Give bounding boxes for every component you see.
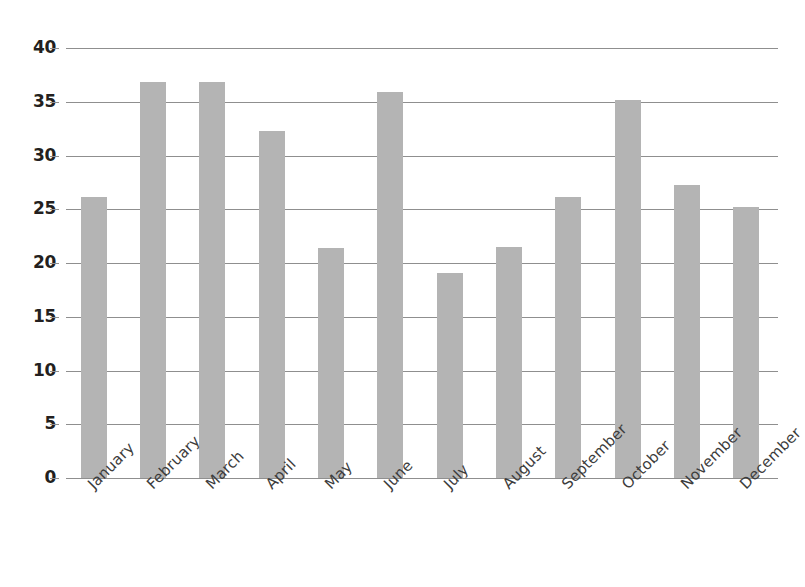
y-tick-label: 35 [10,91,56,111]
gridline [66,317,778,318]
y-tick-label: 40 [10,37,56,57]
y-tick-mark [50,102,59,103]
y-tick-mark [50,424,59,425]
plot-area [66,48,778,478]
y-tick-label: 15 [10,306,56,326]
bar [199,82,225,478]
y-tick-mark [50,48,59,49]
gridline [66,156,778,157]
x-axis-labels: JanuaryFebruaryMarchAprilMayJuneJulyAugu… [66,480,778,585]
y-tick-mark [50,156,59,157]
gridline [66,209,778,210]
gridline [66,48,778,49]
y-tick-label: 20 [10,252,56,272]
gridline [66,102,778,103]
bar [259,131,285,478]
y-tick-label: 10 [10,360,56,380]
cropped-text-artifact [0,0,805,12]
bar-chart: 0510152025303540 JanuaryFebruaryMarchApr… [0,0,805,587]
y-tick-mark [50,263,59,264]
bar [496,247,522,478]
y-tick-mark [50,478,59,479]
y-tick-label: 5 [10,413,56,433]
y-tick-mark [50,371,59,372]
gridline [66,478,778,479]
gridline [66,424,778,425]
y-tick-label: 30 [10,145,56,165]
bar [318,248,344,478]
gridline [66,371,778,372]
y-axis: 0510152025303540 [0,48,56,478]
y-tick-label: 25 [10,198,56,218]
y-tick-mark [50,209,59,210]
bar [674,185,700,478]
bar [140,82,166,478]
y-tick-mark [50,317,59,318]
bar [81,197,107,478]
bar [377,92,403,478]
bar [555,197,581,478]
y-tick-label: 0 [10,467,56,487]
gridline [66,263,778,264]
bar [437,273,463,478]
